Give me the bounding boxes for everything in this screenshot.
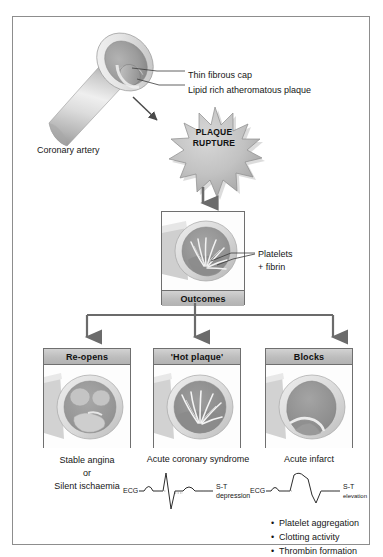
ecg-label-elevation: ECG: [250, 487, 265, 494]
branch-panel-reopens: Re-opens: [43, 348, 131, 448]
ecg-finding-depression-line1: S-T: [216, 483, 250, 492]
branch-header-blocks: Blocks: [266, 349, 352, 365]
ecg-finding-elevation: S-T elevation: [343, 483, 367, 500]
caption-reopens-line1: Stable angina: [25, 454, 149, 467]
figure-frame: Thin fibrous cap Lipid rich atheromatous…: [12, 16, 370, 545]
branch-connectors: [33, 303, 353, 351]
caption-hot-plaque: Acute coronary syndrome: [143, 454, 253, 464]
channel-upper-right: [92, 390, 110, 406]
branch-image-reopens: [44, 365, 130, 448]
blocks-bullet-list: Platelet aggregation Clotting activity T…: [271, 516, 383, 557]
branch-panel-blocks: Blocks: [265, 348, 353, 448]
caption-reopens-line2: or: [25, 467, 149, 480]
branch-image-blocks: [266, 365, 352, 448]
arrow-rupture-to-outcomes: [196, 187, 216, 213]
coronary-artery-illustration: [19, 27, 179, 152]
ecg-finding-elevation-line2: elevation: [343, 492, 367, 501]
starburst-label-line1: PLAQUE: [177, 127, 251, 138]
channel-upper-left: [70, 388, 90, 406]
label-thin-fibrous-cap: Thin fibrous cap: [188, 70, 252, 81]
label-fibrin: + fibrin: [258, 262, 285, 273]
branch-header-hot-plaque: 'Hot plaque': [154, 349, 240, 365]
label-lipid-rich-plaque: Lipid rich atheromatous plaque: [188, 85, 311, 96]
branch-image-hot-plaque: [154, 365, 240, 448]
ecg-trace-st-depression: [139, 469, 219, 513]
ecg-finding-depression-line2: depression: [216, 492, 250, 501]
ecg-finding-depression: S-T depression: [216, 483, 250, 500]
bullet-clotting-activity: Clotting activity: [271, 530, 383, 544]
branch-panel-hot-plaque: 'Hot plaque': [153, 348, 241, 448]
starburst-shape: [169, 107, 262, 197]
starburst-label: PLAQUE RUPTURE: [177, 127, 251, 149]
bullet-thrombin-formation: Thrombin formation: [271, 544, 383, 557]
ecg-finding-elevation-line1: S-T: [343, 483, 367, 492]
platelets-leader-lines: [211, 245, 259, 271]
label-platelets: Platelets: [258, 249, 293, 260]
branch-header-reopens: Re-opens: [44, 349, 130, 365]
ecg-trace-st-elevation: [266, 469, 346, 513]
bullet-platelet-aggregation: Platelet aggregation: [271, 516, 383, 530]
starburst-label-line2: RUPTURE: [177, 138, 251, 149]
label-coronary-artery: Coronary artery: [37, 145, 100, 156]
caption-blocks: Acute infarct: [261, 454, 357, 464]
ecg-label-depression: ECG: [123, 487, 138, 494]
